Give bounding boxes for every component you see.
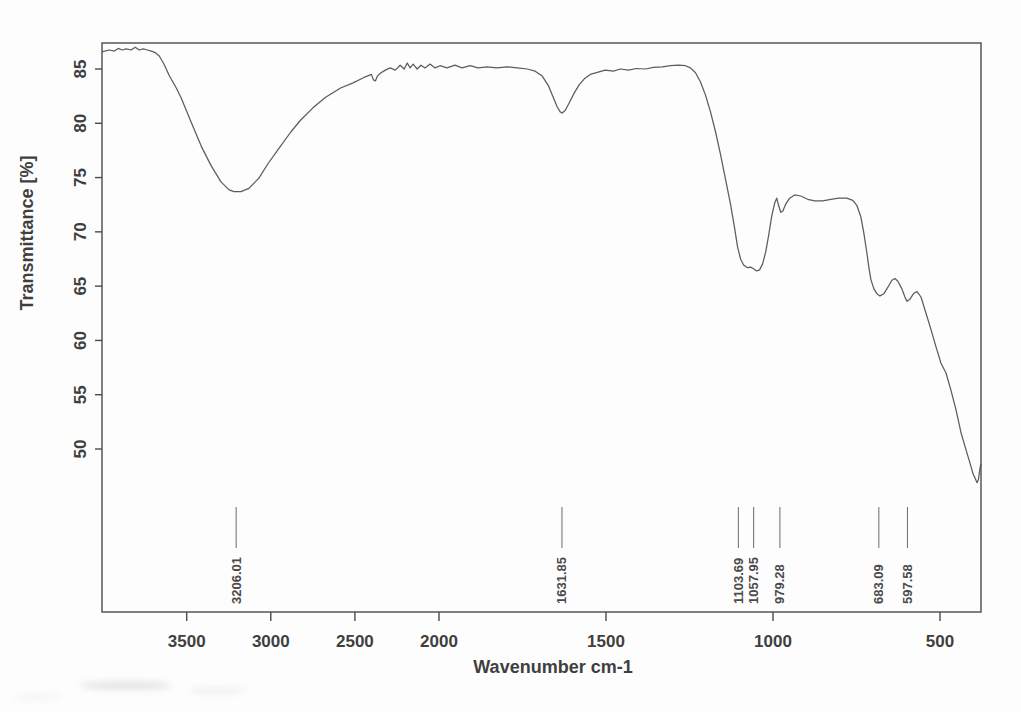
peak-wavenumber-label: 597.58	[900, 564, 915, 604]
y-tick-label: 85	[71, 60, 90, 79]
scan-smudge	[188, 687, 246, 694]
x-tick-label: 2000	[420, 632, 458, 651]
x-axis-ticks: 350030002500200015001000500	[168, 612, 954, 651]
y-tick-label: 80	[71, 114, 90, 133]
peak-wavenumber-label: 1103.69	[731, 558, 746, 604]
peak-wavenumber-label: 3206.01	[229, 557, 244, 604]
y-tick-label: 60	[71, 331, 90, 350]
peak-annotations: 3206.011631.851103.691057.95979.28683.09…	[229, 507, 915, 604]
x-tick-label: 3500	[168, 632, 206, 651]
x-tick-label: 500	[926, 632, 954, 651]
peak-wavenumber-label: 683.09	[871, 564, 886, 604]
plot-frame	[102, 43, 981, 612]
y-tick-label: 75	[71, 168, 90, 187]
y-axis-ticks: 8580757065605550	[71, 60, 102, 459]
y-axis-title: Transmittance [%]	[17, 155, 37, 310]
scan-smudge	[14, 694, 62, 700]
peak-wavenumber-label: 1057.95	[746, 557, 761, 604]
spectrum-curve-group	[103, 47, 981, 482]
x-tick-label: 1500	[587, 632, 625, 651]
x-tick-label: 1000	[754, 632, 792, 651]
peak-wavenumber-label: 1631.85	[554, 557, 569, 604]
y-tick-label: 65	[71, 277, 90, 296]
x-axis-title: Wavenumber cm-1	[473, 657, 632, 677]
y-tick-label: 50	[71, 440, 90, 459]
spectrum-curve	[103, 47, 981, 482]
scanned-ftir-spectrum-page: 8580757065605550 35003000250020001500100…	[0, 0, 1021, 712]
x-tick-label: 3000	[252, 632, 290, 651]
y-tick-label: 70	[71, 222, 90, 241]
ftir-spectrum-chart: 8580757065605550 35003000250020001500100…	[0, 0, 1021, 712]
scan-smudge	[80, 681, 172, 690]
y-tick-label: 55	[71, 385, 90, 404]
x-tick-label: 2500	[336, 632, 374, 651]
peak-wavenumber-label: 979.28	[772, 564, 787, 604]
